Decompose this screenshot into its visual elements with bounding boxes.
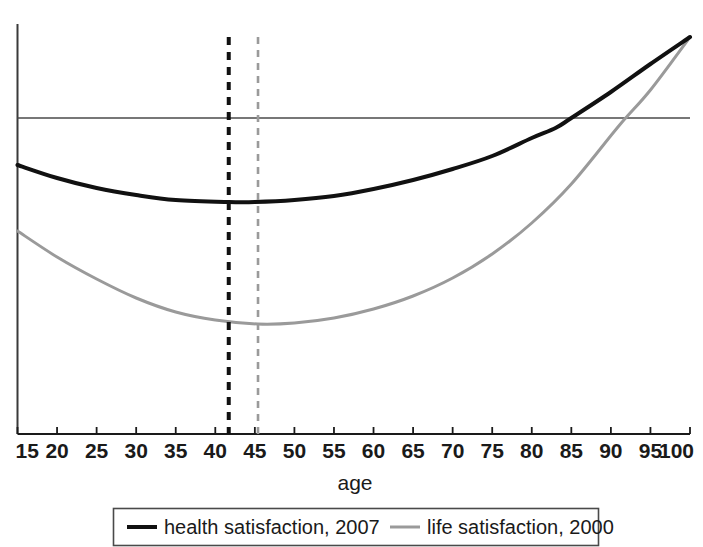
chart-container: 1520253035404550556065707580859095100 ag… — [0, 0, 703, 547]
x-axis-tick-label: 35 — [164, 439, 188, 462]
x-axis-tick-label: 45 — [243, 439, 267, 462]
x-axis-tick-label: 85 — [560, 439, 584, 462]
x-axis-tick-label: 70 — [441, 439, 464, 462]
x-axis-tick-label: 20 — [45, 439, 68, 462]
x-axis-tick-labels: 1520253035404550556065707580859095100 — [16, 439, 695, 462]
chart-svg: 1520253035404550556065707580859095100 ag… — [0, 0, 703, 547]
x-axis-tick-label: 90 — [599, 439, 622, 462]
x-axis-tick-label: 100 — [659, 439, 694, 462]
x-axis-tick-label: 80 — [520, 439, 543, 462]
x-axis-tick-label: 75 — [481, 439, 505, 462]
x-axis-title: age — [337, 471, 372, 494]
series-line-health-satisfaction — [18, 37, 691, 202]
x-axis-tick-label: 15 — [16, 439, 40, 462]
x-axis-tick-label: 30 — [124, 439, 147, 462]
legend-label-life-satisfaction: life satisfaction, 2000 — [427, 516, 614, 538]
series-line-life-satisfaction — [18, 37, 691, 324]
x-axis-ticks — [18, 427, 691, 434]
legend-label-health-satisfaction: health satisfaction, 2007 — [164, 516, 380, 538]
x-axis-tick-label: 60 — [362, 439, 385, 462]
x-axis-tick-label: 25 — [85, 439, 109, 462]
x-axis-tick-label: 65 — [401, 439, 425, 462]
x-axis-tick-label: 50 — [283, 439, 306, 462]
x-axis-tick-label: 55 — [322, 439, 346, 462]
x-axis-tick-label: 40 — [204, 439, 227, 462]
